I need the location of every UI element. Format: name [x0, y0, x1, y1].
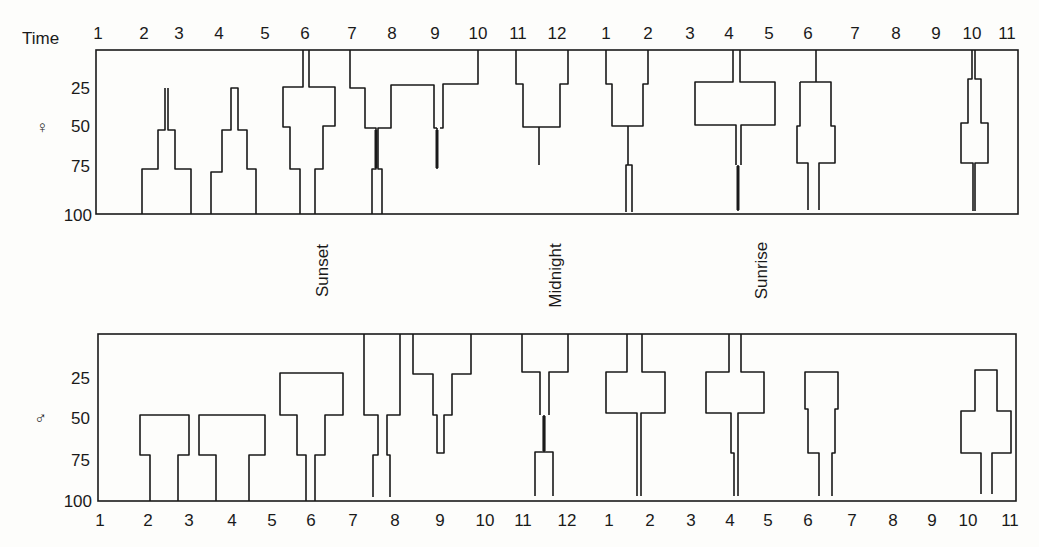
female-y-tick-100: 100 — [52, 207, 92, 224]
top-time-tick-2: 2 — [139, 25, 148, 42]
top-time-tick-17: 5 — [764, 25, 773, 42]
male-kite-shape-6 — [522, 334, 568, 496]
male-kite-shape-8 — [706, 334, 764, 496]
female-y-tick-75: 75 — [50, 158, 90, 175]
male-kite-shape-3 — [280, 373, 343, 501]
male-kite-shape-1 — [140, 415, 189, 501]
midnight-annotation: Midnight — [547, 243, 564, 307]
female-kite-shape-9 — [961, 50, 988, 211]
top-time-tick-14: 2 — [643, 25, 652, 42]
top-time-tick-11: 11 — [509, 25, 527, 42]
top-time-tick-22: 10 — [963, 25, 982, 42]
bottom-time-tick-22: 10 — [959, 512, 978, 529]
male-kite-shape-10 — [961, 370, 1011, 494]
male-y-tick-75: 75 — [50, 452, 90, 469]
top-time-tick-23: 11 — [998, 25, 1016, 42]
male-kite-shape-4 — [364, 334, 400, 497]
top-time-tick-4: 4 — [214, 25, 223, 42]
bottom-time-tick-21: 9 — [927, 512, 936, 529]
top-time-tick-20: 8 — [891, 25, 900, 42]
bottom-time-tick-19: 7 — [847, 512, 856, 529]
male-y-tick-50: 50 — [50, 410, 90, 427]
male-kite-shape-7 — [606, 334, 665, 496]
female-kite-shape-2 — [211, 88, 256, 214]
bottom-time-tick-17: 5 — [763, 512, 772, 529]
bottom-time-tick-15: 3 — [686, 512, 695, 529]
top-time-tick-3: 3 — [174, 25, 183, 42]
top-time-tick-6: 6 — [300, 25, 309, 42]
bottom-time-tick-4: 4 — [227, 512, 236, 529]
top-time-tick-13: 1 — [601, 25, 610, 42]
bottom-time-tick-12: 12 — [558, 512, 577, 529]
female-kite-shape-1 — [142, 88, 191, 214]
male-y-tick-25: 25 — [50, 370, 90, 387]
top-time-tick-9: 9 — [430, 25, 439, 42]
top-time-tick-18: 6 — [803, 25, 812, 42]
female-panel — [96, 50, 1018, 214]
female-kite-shape-3 — [283, 50, 335, 214]
activity-kite-chart: Time 1234567891011121234567891011 123456… — [0, 0, 1039, 547]
bottom-time-tick-18: 6 — [803, 512, 812, 529]
female-kite-shape-7 — [695, 50, 775, 211]
bottom-time-tick-10: 10 — [476, 512, 495, 529]
bottom-time-tick-3: 3 — [184, 512, 193, 529]
female-kite-shape-8 — [797, 50, 835, 210]
top-time-tick-5: 5 — [260, 25, 269, 42]
top-time-tick-15: 3 — [685, 25, 694, 42]
top-time-tick-12: 12 — [548, 25, 567, 42]
female-kite-shape-6 — [606, 50, 648, 212]
chart-canvas — [0, 0, 1039, 547]
male-plot-frame — [98, 334, 1016, 501]
bottom-time-tick-2: 2 — [143, 512, 152, 529]
bottom-time-tick-13: 1 — [604, 512, 613, 529]
male-panel — [98, 334, 1016, 501]
bottom-time-tick-1: 1 — [95, 512, 104, 529]
male-symbol-icon: ♂ — [34, 410, 47, 427]
female-kite-shape-5 — [516, 50, 568, 165]
top-time-tick-1: 1 — [93, 25, 102, 42]
female-y-tick-25: 25 — [50, 80, 90, 97]
male-kite-shape-9 — [805, 372, 838, 496]
bottom-time-tick-7: 7 — [348, 512, 357, 529]
male-kite-shape-2 — [199, 415, 265, 501]
bottom-time-tick-6: 6 — [306, 512, 315, 529]
bottom-time-tick-14: 2 — [645, 512, 654, 529]
top-time-tick-21: 9 — [931, 25, 940, 42]
top-time-tick-19: 7 — [850, 25, 859, 42]
sunset-annotation: Sunset — [314, 244, 331, 297]
bottom-time-tick-23: 11 — [1001, 512, 1019, 529]
bottom-time-tick-20: 8 — [888, 512, 897, 529]
bottom-time-tick-11: 11 — [514, 512, 532, 529]
female-plot-frame — [96, 50, 1018, 214]
bottom-time-tick-9: 9 — [435, 512, 444, 529]
female-symbol-icon: ♀ — [36, 119, 49, 136]
bottom-time-tick-8: 8 — [390, 512, 399, 529]
top-time-tick-7: 7 — [347, 25, 356, 42]
time-axis-title: Time — [22, 30, 59, 47]
male-y-tick-100: 100 — [52, 493, 92, 510]
male-kite-shape-5 — [413, 334, 471, 453]
female-kite-shape-4 — [350, 50, 478, 214]
top-time-tick-16: 4 — [724, 25, 733, 42]
bottom-time-tick-5: 5 — [267, 512, 276, 529]
bottom-time-tick-16: 4 — [725, 512, 734, 529]
top-time-tick-8: 8 — [387, 25, 396, 42]
sunrise-annotation: Sunrise — [753, 242, 770, 300]
female-y-tick-50: 50 — [50, 118, 90, 135]
top-time-tick-10: 10 — [469, 25, 488, 42]
